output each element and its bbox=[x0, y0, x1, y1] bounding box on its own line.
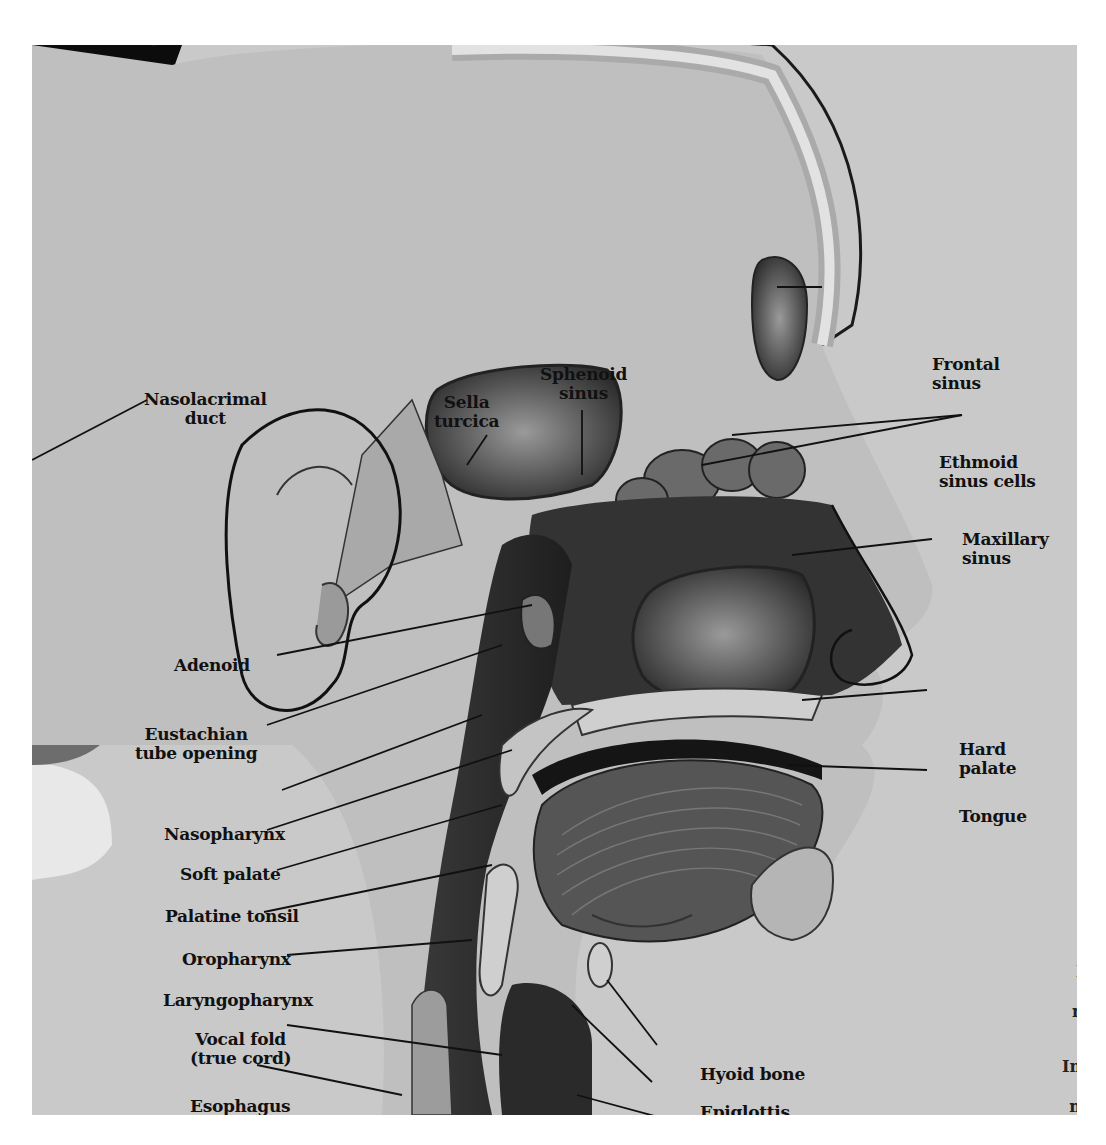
label-oropharynx: Oropharynx bbox=[182, 950, 291, 969]
label-soft-palate: Soft palate bbox=[180, 865, 280, 884]
label-nasopharynx: Nasopharynx bbox=[164, 825, 285, 844]
label-hard-palate: Hard palate bbox=[959, 740, 1016, 778]
label-frontal-sinus: Frontal sinus bbox=[932, 355, 1000, 393]
label-laryngopharynx: Laryngopharynx bbox=[163, 991, 313, 1010]
label-esophagus: Esophagus bbox=[190, 1097, 290, 1115]
anatomy-illustration: Nasolacrimal duct Sella turcica Sphenoid… bbox=[32, 45, 1077, 1115]
label-adenoid: Adenoid bbox=[174, 656, 250, 675]
label-sella-turcica: Sella turcica bbox=[434, 393, 499, 431]
label-palatine-tonsil: Palatine tonsil bbox=[165, 907, 299, 926]
label-vocal-fold: Vocal fold (true cord) bbox=[190, 1030, 291, 1068]
label-ethmoid-sinus-cells: Ethmoid sinus cells bbox=[939, 453, 1036, 491]
label-maxillary-sinus: Maxillary sinus bbox=[962, 530, 1049, 568]
label-epiglottis: Epiglottis bbox=[700, 1103, 790, 1115]
cutoff-label-infer: Infer na mea bbox=[1062, 1057, 1077, 1115]
label-sphenoid-sinus: Sphenoid sinus bbox=[540, 365, 627, 403]
label-nasolacrimal-duct: Nasolacrimal duct bbox=[144, 390, 267, 428]
cutoff-label-mid: Mic n mea bbox=[1072, 962, 1077, 1022]
label-tongue: Tongue bbox=[959, 807, 1027, 826]
label-hyoid-bone: Hyoid bone bbox=[700, 1065, 805, 1084]
label-eustachian-tube-opening: Eustachian tube opening bbox=[135, 725, 257, 763]
